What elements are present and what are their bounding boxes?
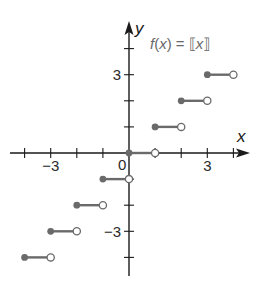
step-segment — [73, 202, 106, 209]
closed-endpoint — [204, 71, 211, 78]
closed-endpoint — [178, 97, 185, 104]
open-endpoint — [47, 254, 54, 261]
closed-endpoint — [152, 124, 159, 131]
step-segment — [204, 71, 237, 78]
step-segment — [152, 123, 185, 130]
y-tick-label: 3 — [113, 66, 121, 83]
open-endpoint — [178, 123, 185, 130]
y-tick-label: −3 — [104, 223, 121, 240]
closed-endpoint — [100, 176, 107, 183]
open-endpoint — [125, 176, 132, 183]
closed-endpoint — [47, 228, 54, 235]
x-axis-label: x — [236, 127, 246, 146]
chart-title: f(x) = ⟦x⟧ — [150, 35, 210, 52]
open-endpoint — [73, 228, 80, 235]
open-endpoint — [230, 71, 237, 78]
origin-label: 0 — [118, 156, 126, 173]
open-endpoint — [99, 202, 106, 209]
closed-endpoint — [126, 150, 133, 157]
axes — [10, 21, 250, 276]
step-segment — [47, 228, 80, 235]
step-segment — [100, 176, 133, 183]
x-tick-label: −3 — [42, 157, 59, 174]
step-segment — [178, 97, 211, 104]
step-segment — [21, 254, 54, 261]
y-axis-label: y — [134, 19, 145, 38]
closed-endpoint — [73, 202, 80, 209]
step-segment — [126, 149, 159, 156]
open-endpoint — [152, 149, 159, 156]
step-function-chart: −333−3 x y 0 f(x) = ⟦x⟧ — [0, 0, 258, 283]
open-endpoint — [204, 97, 211, 104]
closed-endpoint — [21, 254, 28, 261]
x-tick-label: 3 — [203, 157, 211, 174]
